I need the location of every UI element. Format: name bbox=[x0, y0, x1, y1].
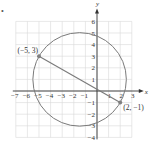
coordinate-plot: xy −7−6−5−4−3−2−1123−4−3−2−1123456 (−5, … bbox=[0, 0, 150, 142]
x-axis-arrow-icon bbox=[139, 89, 144, 93]
y-tick-label: −1 bbox=[88, 99, 96, 107]
y-tick-label: 4 bbox=[92, 41, 96, 49]
x-tick-label: −2 bbox=[69, 92, 77, 100]
x-tick-label: −3 bbox=[57, 92, 65, 100]
tick-labels: −7−6−5−4−3−2−1123−4−3−2−1123456 bbox=[11, 18, 135, 142]
y-tick-label: 5 bbox=[92, 30, 96, 38]
point-label: (2, −1) bbox=[123, 103, 144, 112]
y-tick-label: 1 bbox=[92, 76, 96, 84]
y-tick-label: 2 bbox=[92, 64, 96, 72]
point-label: (−5, 3) bbox=[18, 46, 39, 55]
x-axis-label: x bbox=[144, 88, 149, 96]
x-tick-label: 3 bbox=[131, 92, 135, 100]
y-tick-label: −4 bbox=[88, 134, 96, 142]
x-tick-label: −6 bbox=[23, 92, 31, 100]
y-tick-label: 3 bbox=[92, 53, 96, 61]
y-tick-label: 6 bbox=[92, 18, 96, 26]
data-point bbox=[118, 101, 122, 105]
y-tick-label: −2 bbox=[88, 111, 96, 119]
x-tick-label: −4 bbox=[46, 92, 54, 100]
y-axis-label: y bbox=[95, 0, 100, 8]
x-tick-label: −7 bbox=[11, 92, 19, 100]
axes: xy bbox=[13, 0, 149, 139]
y-axis-arrow-icon bbox=[95, 8, 99, 13]
